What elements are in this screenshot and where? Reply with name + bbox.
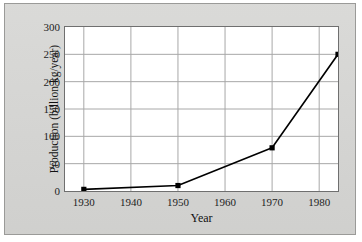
data-point-marker [175, 183, 180, 188]
plot-area [64, 26, 339, 192]
data-point-marker [270, 145, 275, 150]
x-axis-tick-labels: 193019401950196019701980 [64, 196, 339, 212]
grid-lines [65, 27, 338, 191]
y-axis-tick-label: 250 [24, 48, 60, 60]
plot-svg [65, 27, 338, 191]
x-axis-tick-label: 1950 [167, 196, 189, 208]
x-axis-tick-label: 1940 [120, 196, 142, 208]
data-point-marker [81, 187, 86, 191]
data-line-series [84, 54, 338, 189]
series-polyline [84, 54, 338, 189]
y-axis-tick-label: 300 [24, 21, 60, 33]
y-axis-tick-label: 100 [24, 130, 60, 142]
y-axis-tick-label: 150 [24, 103, 60, 115]
y-axis-tick-label: 50 [24, 158, 60, 170]
x-axis-tick-label: 1980 [308, 196, 330, 208]
y-axis-tick-label: 0 [24, 185, 60, 197]
x-axis-tick-label: 1960 [214, 196, 236, 208]
data-point-markers [81, 52, 338, 191]
x-axis-title: Year [64, 211, 339, 226]
data-point-marker [335, 52, 338, 57]
y-axis-tick-label: 200 [24, 76, 60, 88]
x-axis-tick-label: 1930 [73, 196, 95, 208]
chart-figure: Production (billion kg/year) 05010015020… [0, 0, 362, 242]
x-axis-tick-label: 1970 [261, 196, 283, 208]
y-axis-tick-labels: 050100150200250300 [22, 26, 60, 192]
